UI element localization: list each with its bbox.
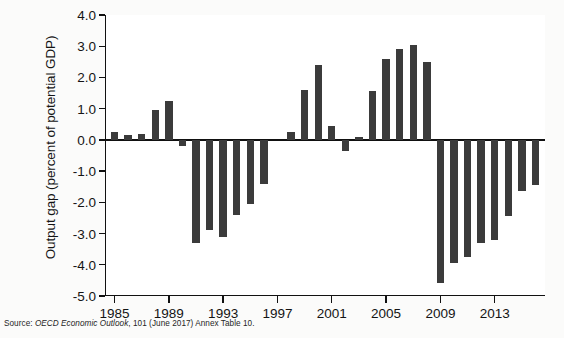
bar-2006	[396, 49, 403, 140]
plot-area: 4.03.02.01.00.0-1.0-2.0-3.0-4.0-5.0 1985…	[105, 15, 545, 296]
y-axis-tick-mark	[99, 295, 105, 296]
x-axis-tick-mark	[385, 296, 386, 303]
y-axis-tick-mark	[99, 14, 105, 15]
source-suffix: , 101 (June 2017) Annex Table 10.	[128, 319, 254, 328]
bar-2004	[369, 91, 376, 139]
bar-2016	[532, 140, 539, 185]
y-axis-tick-label: -1.0	[73, 164, 96, 179]
y-axis-tick-label: 3.0	[77, 39, 96, 54]
bar-1994	[233, 140, 240, 215]
x-axis-tick-mark	[331, 296, 332, 303]
y-axis-tick-label: 4.0	[77, 8, 96, 23]
y-axis-tick-label: -3.0	[73, 226, 96, 241]
source-publication: OECD Economic Outlook	[35, 319, 128, 328]
y-axis-tick-label: 0.0	[77, 132, 96, 147]
bar-1991	[192, 140, 199, 243]
y-axis-tick-mark	[99, 233, 105, 234]
y-axis-tick-mark	[99, 108, 105, 109]
bar-2012	[477, 140, 484, 243]
bar-2013	[491, 140, 498, 240]
y-axis-tick-label: -5.0	[73, 289, 96, 304]
bar-2014	[505, 140, 512, 216]
bar-1987	[138, 134, 145, 140]
bar-1989	[165, 101, 172, 140]
y-axis-tick-label: -4.0	[73, 257, 96, 272]
bar-2008	[423, 62, 430, 140]
y-axis-tick-label: 2.0	[77, 70, 96, 85]
y-axis-tick-mark	[99, 170, 105, 171]
x-axis-tick-mark	[222, 296, 223, 303]
bar-2011	[464, 140, 471, 257]
y-axis-tick-label: 1.0	[77, 101, 96, 116]
bar-2007	[410, 45, 417, 140]
bar-1988	[152, 110, 159, 140]
bar-2001	[328, 126, 335, 140]
x-axis-tick-label: 2009	[425, 306, 455, 321]
bar-2003	[355, 137, 362, 140]
bar-1985	[111, 132, 118, 140]
source-prefix: Source:	[4, 319, 35, 328]
source-note: Source: OECD Economic Outlook, 101 (June…	[4, 319, 255, 328]
x-axis-tick-mark	[277, 296, 278, 303]
x-axis-tick-label: 2005	[371, 306, 401, 321]
bar-1996	[260, 140, 267, 184]
bar-2005	[382, 59, 389, 140]
y-axis-tick-mark	[99, 77, 105, 78]
bar-2015	[518, 140, 525, 192]
bar-1990	[179, 140, 186, 146]
bar-1986	[124, 135, 131, 140]
bar-1992	[206, 140, 213, 231]
bar-1995	[247, 140, 254, 204]
x-axis-tick-label: 2013	[480, 306, 510, 321]
bar-2009	[437, 140, 444, 284]
x-axis-tick-label: 2001	[317, 306, 347, 321]
bar-1999	[301, 90, 308, 140]
y-axis-title: Output gap (percent of potential GDP)	[43, 0, 58, 298]
bar-1993	[219, 140, 226, 237]
x-axis-tick-label: 1997	[262, 306, 292, 321]
y-axis-tick-mark	[99, 202, 105, 203]
output-gap-figure: Output gap (percent of potential GDP) 4.…	[0, 0, 564, 338]
x-axis-tick-mark	[168, 296, 169, 303]
y-axis-tick-label: -2.0	[73, 195, 96, 210]
bar-1998	[287, 132, 294, 140]
x-axis-tick-mark	[440, 296, 441, 303]
x-axis-tick-mark	[494, 296, 495, 303]
bar-2000	[315, 65, 322, 140]
bar-2010	[450, 140, 457, 263]
y-axis-tick-mark	[99, 264, 105, 265]
x-axis-tick-mark	[114, 296, 115, 303]
bar-2002	[342, 140, 349, 151]
y-axis-tick-mark	[99, 46, 105, 47]
